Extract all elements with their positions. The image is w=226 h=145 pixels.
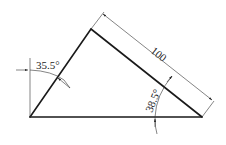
left-edge [30, 29, 91, 117]
angle-arc-top-left [30, 70, 70, 88]
angle-label-bottom-right: 38.5° [143, 87, 163, 113]
angle-arc-bottom-right [155, 76, 172, 134]
angle-arrow-top [167, 76, 172, 82]
triangle-diagram: 100 35.5° 38.5° [0, 0, 226, 145]
angle-arrow-right [58, 78, 70, 88]
extension-line-bottom [202, 101, 214, 117]
angle-label-top-left: 35.5° [36, 59, 60, 71]
length-label: 100 [149, 44, 170, 64]
extension-line-top [91, 12, 104, 29]
